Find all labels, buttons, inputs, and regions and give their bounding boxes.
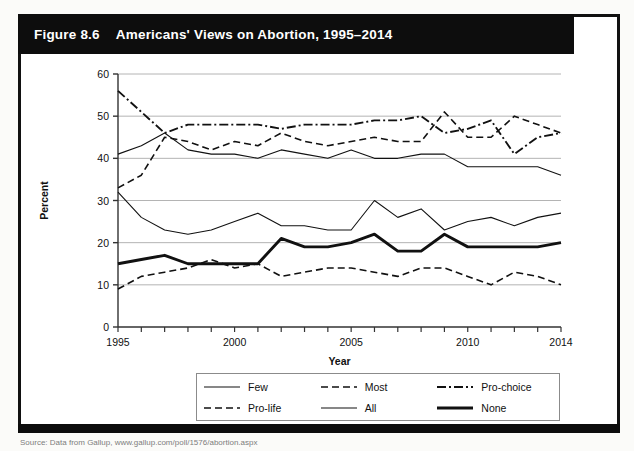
legend-item-most[interactable]: Most bbox=[320, 381, 437, 393]
legend-item-all[interactable]: All bbox=[320, 402, 437, 414]
chart-plot-area: 010203040506019952000200520102014YearPer… bbox=[18, 54, 620, 424]
line-dash-dot-icon bbox=[436, 381, 474, 393]
y-tick-label-50: 50 bbox=[97, 110, 109, 122]
legend-item-label: Pro-life bbox=[248, 402, 281, 414]
y-axis-title: Percent bbox=[38, 181, 50, 220]
legend-item-label: Most bbox=[365, 381, 388, 393]
series-line-all bbox=[118, 133, 561, 175]
y-tick-label-30: 30 bbox=[97, 195, 109, 207]
x-tick-label-2000: 2000 bbox=[223, 336, 247, 348]
series-line-pro-life bbox=[118, 112, 561, 188]
figure-root: Figure 8.6 Americans' Views on Abortion,… bbox=[0, 0, 634, 451]
series-line-none bbox=[118, 234, 561, 264]
line-dashed-icon bbox=[320, 381, 358, 393]
line-solid-icon bbox=[203, 381, 241, 393]
bottom-rule bbox=[18, 424, 620, 433]
legend-item-label: All bbox=[365, 402, 377, 414]
legend-item-none[interactable]: None bbox=[436, 402, 553, 414]
chart-legend: FewMostPro-choicePro-lifeAllNone bbox=[196, 373, 560, 421]
line-dashed-icon bbox=[203, 402, 241, 414]
x-tick-label-2014: 2014 bbox=[549, 336, 573, 348]
series-line-few bbox=[118, 192, 561, 234]
legend-item-few[interactable]: Few bbox=[203, 381, 320, 393]
legend-item-label: Pro-choice bbox=[481, 381, 531, 393]
page-title: Americans' Views on Abortion, 1995–2014 bbox=[116, 27, 393, 42]
legend-item-label: Few bbox=[248, 381, 268, 393]
legend-item-pro-life[interactable]: Pro-life bbox=[203, 402, 320, 414]
legend-item-pro-choice[interactable]: Pro-choice bbox=[436, 381, 553, 393]
source-note: Source: Data from Gallup, www.gallup.com… bbox=[20, 438, 440, 450]
y-tick-label-20: 20 bbox=[97, 237, 109, 249]
line-solid-icon bbox=[320, 402, 358, 414]
x-tick-label-2010: 2010 bbox=[456, 336, 480, 348]
figure-number: Figure 8.6 bbox=[34, 27, 100, 42]
y-tick-label-10: 10 bbox=[97, 279, 109, 291]
series-line-pro-choice bbox=[118, 91, 561, 154]
line-thick-icon bbox=[436, 402, 474, 414]
x-tick-label-1995: 1995 bbox=[106, 336, 130, 348]
x-tick-label-2005: 2005 bbox=[339, 336, 363, 348]
y-tick-label-0: 0 bbox=[103, 321, 109, 333]
x-axis-title: Year bbox=[328, 355, 350, 367]
y-tick-label-40: 40 bbox=[97, 152, 109, 164]
figure-title-banner: Figure 8.6 Americans' Views on Abortion,… bbox=[18, 14, 574, 54]
legend-item-label: None bbox=[481, 402, 506, 414]
line-chart: 010203040506019952000200520102014YearPer… bbox=[18, 54, 620, 424]
y-tick-label-60: 60 bbox=[97, 68, 109, 80]
